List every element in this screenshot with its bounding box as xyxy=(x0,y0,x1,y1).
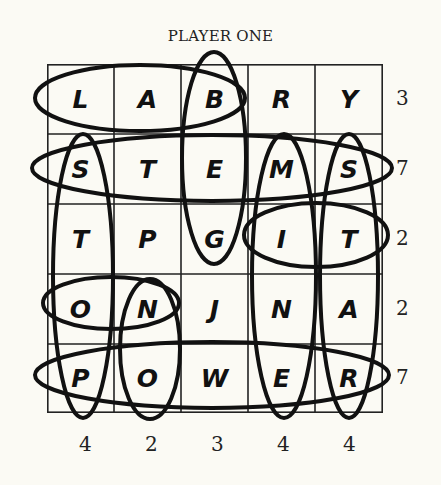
loop-star xyxy=(320,134,378,418)
col-clue: 4 xyxy=(277,432,290,456)
row-clue: 7 xyxy=(396,156,409,180)
word-loops xyxy=(0,0,441,485)
loop-lab xyxy=(35,65,245,131)
row-clue: 3 xyxy=(396,86,409,110)
row-clue: 7 xyxy=(396,365,409,389)
col-clue: 4 xyxy=(343,432,356,456)
loop-mine xyxy=(252,134,316,418)
row-clue: 2 xyxy=(396,296,409,320)
col-clue: 3 xyxy=(211,432,224,456)
col-clue: 4 xyxy=(79,432,92,456)
col-clue: 2 xyxy=(145,432,158,456)
loop-no xyxy=(120,279,180,419)
loop-beg xyxy=(182,52,246,264)
row-clue: 2 xyxy=(396,226,409,250)
